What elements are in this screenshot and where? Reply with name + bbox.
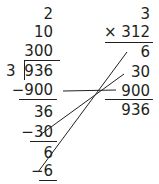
subtract-30: −30 bbox=[21, 124, 53, 141]
partial-product-6: 6 bbox=[140, 44, 150, 61]
underline-6 bbox=[39, 180, 57, 181]
divisor: 3 bbox=[6, 63, 16, 80]
connector-900 bbox=[63, 90, 116, 91]
quotient-300: 300 bbox=[24, 43, 53, 60]
product-total: 936 bbox=[121, 102, 150, 119]
underline-900 bbox=[19, 99, 57, 100]
subtract-6: −6 bbox=[31, 163, 53, 180]
dividend: 936 bbox=[24, 63, 53, 80]
division-bracket-top bbox=[25, 60, 60, 61]
quotient-10: 10 bbox=[34, 24, 53, 41]
multiplicand: 3 bbox=[140, 6, 150, 23]
total-rule bbox=[105, 99, 153, 100]
quotient-2: 2 bbox=[43, 6, 53, 23]
remainder-6: 6 bbox=[43, 145, 53, 162]
underline-30 bbox=[30, 141, 57, 142]
partial-product-900: 900 bbox=[121, 83, 150, 100]
partial-product-30: 30 bbox=[131, 64, 150, 81]
subtract-900: −900 bbox=[12, 82, 53, 99]
multiplier: × 312 bbox=[104, 24, 150, 41]
remainder-36: 36 bbox=[34, 104, 53, 121]
